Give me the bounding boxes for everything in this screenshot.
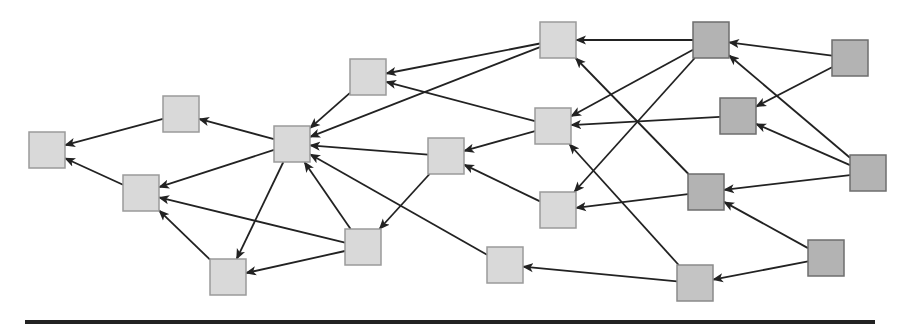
- node-layer: [29, 22, 886, 301]
- node-box: [850, 155, 886, 191]
- edge-n11-to-n8: [464, 165, 540, 202]
- node-box: [693, 22, 729, 58]
- node-box: [274, 126, 310, 162]
- edge-n7-to-n4: [246, 251, 345, 273]
- edge-n8-to-n5: [310, 145, 428, 154]
- edge-n13-to-n11: [574, 58, 695, 192]
- graph-node-n14: [720, 98, 756, 134]
- node-box: [29, 132, 65, 168]
- node-box: [487, 247, 523, 283]
- graph-node-n19: [808, 240, 844, 276]
- edge-n19-to-n16: [713, 261, 808, 279]
- graph-node-n5: [274, 126, 310, 162]
- node-box: [808, 240, 844, 276]
- graph-node-n4: [210, 259, 246, 295]
- graph-node-n15: [688, 174, 724, 210]
- edge-n16-to-n12: [523, 267, 677, 282]
- graph-node-n7: [345, 229, 381, 265]
- edge-n5-to-n2: [199, 119, 274, 139]
- node-box: [345, 229, 381, 265]
- edge-n13-to-n10: [571, 50, 693, 116]
- node-box: [832, 40, 868, 76]
- edge-n2-to-n1: [65, 119, 163, 145]
- directed-graph-diagram: [0, 0, 920, 329]
- node-box: [428, 138, 464, 174]
- graph-node-n6: [350, 59, 386, 95]
- edge-n19-to-n15: [724, 202, 808, 248]
- node-box: [540, 22, 576, 58]
- edge-n7-to-n5: [304, 162, 350, 229]
- node-box: [350, 59, 386, 95]
- edge-n15-to-n9: [576, 58, 689, 174]
- graph-node-n8: [428, 138, 464, 174]
- graph-node-n18: [850, 155, 886, 191]
- edge-n18-to-n14: [756, 124, 850, 165]
- node-box: [688, 174, 724, 210]
- edge-n4-to-n3: [159, 210, 210, 259]
- node-box: [535, 108, 571, 144]
- edge-n8-to-n7: [379, 174, 429, 229]
- bottom-rule-divider: [25, 320, 875, 324]
- edge-n14-to-n10: [571, 117, 720, 125]
- edge-n15-to-n11: [576, 194, 688, 208]
- edge-n10-to-n8: [464, 131, 535, 151]
- node-box: [677, 265, 713, 301]
- edge-n9-to-n6: [386, 44, 540, 74]
- graph-node-n2: [163, 96, 199, 132]
- edge-n18-to-n15: [724, 175, 850, 190]
- graph-node-n3: [123, 175, 159, 211]
- graph-node-n1: [29, 132, 65, 168]
- graph-node-n11: [540, 192, 576, 228]
- edge-n3-to-n1: [65, 158, 123, 185]
- graph-node-n12: [487, 247, 523, 283]
- edge-n16-to-n10: [569, 144, 678, 265]
- node-box: [163, 96, 199, 132]
- graph-node-n10: [535, 108, 571, 144]
- edge-n10-to-n6: [386, 82, 535, 121]
- edge-n17-to-n13: [729, 42, 832, 55]
- graph-node-n9: [540, 22, 576, 58]
- graph-node-n16: [677, 265, 713, 301]
- graph-node-n13: [693, 22, 729, 58]
- graph-node-n17: [832, 40, 868, 76]
- edge-n5-to-n4: [237, 162, 284, 259]
- node-box: [540, 192, 576, 228]
- node-box: [210, 259, 246, 295]
- node-box: [123, 175, 159, 211]
- node-box: [720, 98, 756, 134]
- edge-n7-to-n3: [159, 197, 345, 242]
- edge-n5-to-n3: [159, 150, 274, 187]
